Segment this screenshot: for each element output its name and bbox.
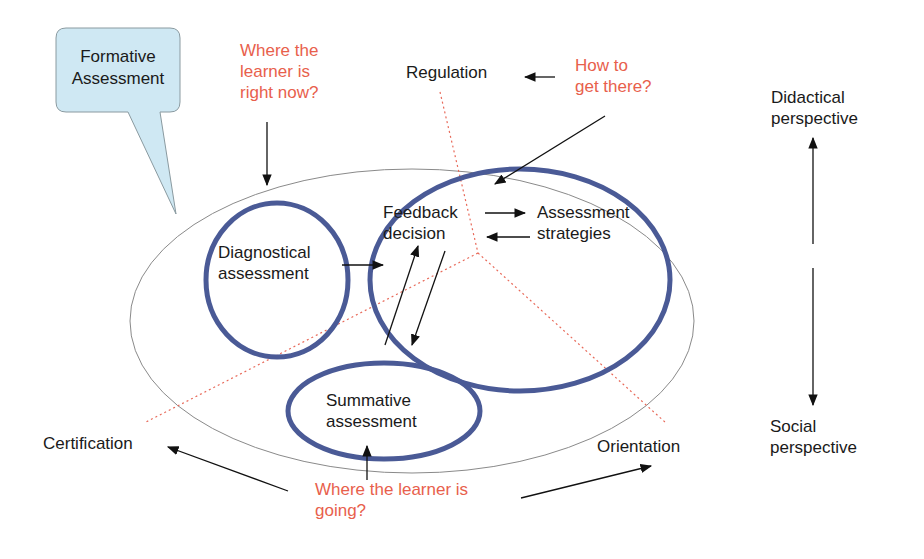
summative-line2: assessment — [326, 411, 417, 432]
callout-line1: Formative — [56, 46, 180, 68]
diagnostical-line2: assessment — [218, 263, 311, 284]
assessment-strategies-node: Assessment strategies — [537, 202, 630, 244]
question-now-line1: Where the — [240, 40, 318, 61]
social-line2: perspective — [770, 437, 857, 458]
arrow-feedback-to-summative — [412, 251, 445, 345]
question-going-line2: going? — [315, 500, 468, 521]
formative-callout-label: Formative Assessment — [56, 46, 180, 90]
social-perspective-label: Social perspective — [770, 416, 857, 458]
question-now-line2: learner is — [240, 61, 318, 82]
feedback-decision-node: Feedback decision — [383, 202, 458, 244]
arrow-summative-to-feedback — [385, 246, 418, 345]
strategies-line1: Assessment — [537, 202, 630, 223]
didactical-line2: perspective — [771, 108, 858, 129]
callout-line2: Assessment — [56, 68, 180, 90]
arrows — [168, 77, 813, 498]
question-now-line3: right now? — [240, 82, 318, 103]
regulation-label: Regulation — [406, 62, 487, 83]
question-where-going: Where the learner is going? — [315, 479, 468, 521]
summative-assessment-node: Summative assessment — [326, 390, 417, 432]
question-how-to-get-there: How to get there? — [575, 55, 652, 97]
diagnostical-line1: Diagnostical — [218, 242, 311, 263]
strategies-line2: strategies — [537, 223, 630, 244]
question-where-now: Where the learner is right now? — [240, 40, 318, 103]
feedback-line2: decision — [383, 223, 458, 244]
feedback-line1: Feedback — [383, 202, 458, 223]
arrow-going-to-orientation — [521, 466, 651, 498]
summative-line1: Summative — [326, 390, 417, 411]
question-how-line2: get there? — [575, 76, 652, 97]
question-how-line1: How to — [575, 55, 652, 76]
didactical-perspective-label: Didactical perspective — [771, 87, 858, 129]
social-line1: Social — [770, 416, 857, 437]
didactical-line1: Didactical — [771, 87, 858, 108]
diagnostical-assessment-node: Diagnostical assessment — [218, 242, 311, 284]
orientation-label: Orientation — [597, 436, 680, 457]
arrow-going-to-certification — [168, 447, 288, 491]
certification-label: Certification — [43, 433, 133, 454]
arrow-how-to-feedback — [495, 116, 605, 184]
question-going-line1: Where the learner is — [315, 479, 468, 500]
